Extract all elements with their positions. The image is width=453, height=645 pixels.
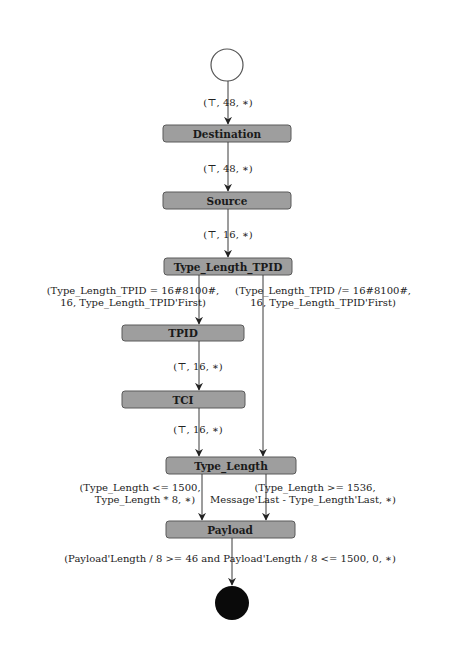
start-state	[211, 49, 243, 81]
node-type-length-tpid-label: Type_Length_TPID	[174, 261, 283, 275]
edge-label-ge-line2: Message'Last - Type_Length'Last, ∗)	[210, 494, 396, 506]
edge-label-le-line1: (Type_Length <= 1500,	[79, 482, 200, 494]
node-type-length-tpid: Type_Length_TPID	[164, 258, 292, 275]
final-state	[215, 586, 249, 620]
node-destination: Destination	[163, 125, 291, 142]
node-type-length-label: Type_Length	[194, 460, 268, 474]
node-tpid: TPID	[122, 325, 244, 341]
node-type-length: Type_Length	[166, 457, 296, 474]
edge-label-destination-source: (⊤, 48, ∗)	[203, 163, 253, 174]
edge-label-ge-line1: (Type_Length >= 1536,	[254, 482, 375, 494]
edge-label-tpid-branch-line1: (Type_Length_TPID = 16#8100#,	[47, 285, 220, 297]
node-destination-label: Destination	[193, 128, 262, 140]
edge-label-tpid-branch-line2: 16, Type_Length_TPID'First)	[60, 297, 206, 309]
edge-label-source-type-length-tpid: (⊤, 16, ∗)	[203, 229, 253, 240]
node-source: Source	[163, 192, 291, 209]
node-tci-label: TCI	[172, 394, 193, 406]
edge-label-bypass-line2: 16, Type_Length_TPID'First)	[250, 297, 396, 309]
edge-label-tci-type-length: (⊤, 16, ∗)	[173, 424, 223, 435]
edge-label-payload-final: (Payload'Length / 8 >= 46 and Payload'Le…	[64, 553, 396, 564]
edge-label-tpid-tci: (⊤, 16, ∗)	[173, 361, 223, 372]
edge-label-start-destination: (⊤, 48, ∗)	[203, 97, 253, 108]
node-tci: TCI	[122, 391, 245, 408]
edge-label-le-line2: Type_Length * 8, ∗)	[95, 494, 195, 506]
edge-label-bypass-line1: (Type_Length_TPID /= 16#8100#,	[235, 285, 411, 297]
node-payload-label: Payload	[207, 524, 253, 536]
node-payload: Payload	[166, 521, 295, 538]
node-tpid-label: TPID	[168, 327, 198, 339]
node-source-label: Source	[207, 195, 248, 207]
state-diagram: (⊤, 48, ∗) Destination (⊤, 48, ∗) Source…	[0, 0, 453, 645]
